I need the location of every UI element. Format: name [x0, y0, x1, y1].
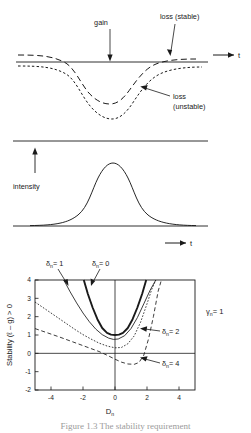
series-label-delta1: δn= 1	[46, 259, 63, 269]
svg-text:Stability (ℓ – g) > 0: Stability (ℓ – g) > 0	[5, 304, 14, 366]
intensity-pulse-curve	[30, 163, 196, 226]
t-axis-arrow	[213, 52, 234, 58]
y-tick-label: -2	[25, 386, 31, 393]
figure-container: t gain loss (stable) loss (unstable)	[0, 0, 251, 433]
intensity-axis-label: intensity	[13, 182, 40, 191]
y-tick-label: 0	[27, 350, 31, 357]
figure-caption: Figure 1.3 The stability requirement	[0, 421, 251, 433]
y-axis-ticks: 43210-1-2	[25, 276, 38, 393]
gain-annotation-arrow	[107, 29, 112, 62]
svg-text:γn= 1: γn= 1	[206, 307, 223, 317]
t-axis-label-mid: t	[190, 239, 193, 248]
svg-text:Dn: Dn	[106, 407, 114, 417]
series-leader-delta2	[145, 329, 160, 331]
series-label-delta2: δn= 2	[162, 327, 179, 337]
x-tick-label: 0	[113, 394, 117, 401]
loss-unstable-annotation-label-1: loss	[173, 92, 186, 101]
x-tick-label: 2	[145, 394, 149, 401]
x-axis-ticks: -4-2024	[48, 387, 181, 402]
x-tick-label: -4	[48, 394, 54, 401]
stability-panel: -4-2024 43210-1-2 Dn Stability (ℓ – g) >…	[0, 256, 251, 421]
series-leader-delta4	[145, 359, 160, 363]
y-tick-label: 3	[27, 295, 31, 302]
y-axis-title: Stability (ℓ – g) > 0	[5, 304, 14, 366]
t-axis-arrow-mid	[165, 240, 186, 246]
x-tick-label: -2	[80, 394, 86, 401]
x-axis-title: Dn	[106, 407, 114, 417]
loss-stable-annotation-label: loss (stable)	[160, 12, 199, 21]
t-axis-label-top: t	[238, 51, 241, 60]
series-label-delta0: δn= 0	[92, 259, 109, 269]
gain-annotation-label: gain	[94, 18, 108, 27]
gain-loss-panel: t gain loss (stable) loss (unstable)	[0, 0, 251, 130]
y-tick-label: 2	[27, 313, 31, 320]
loss-unstable-annotation-arrow	[140, 85, 170, 96]
series-annotations: δn= 1 δn= 0 δn= 2 δn= 4	[46, 259, 179, 369]
chart-curves	[35, 280, 161, 364]
y-tick-label: 1	[27, 331, 31, 338]
intensity-panel: intensity t	[0, 130, 251, 256]
y-tick-label: -1	[25, 368, 31, 375]
series-label-delta4: δn= 4	[162, 359, 179, 369]
y-tick-label: 4	[27, 276, 31, 283]
series-curve-1	[64, 280, 156, 339]
loss-unstable-annotation-label-2: (unstable)	[173, 102, 205, 111]
x-tick-label: 4	[177, 394, 181, 401]
gamma-n-annotation: γn= 1	[206, 307, 223, 317]
intensity-axis-arrow	[32, 148, 37, 174]
loss-stable-annotation-arrow	[167, 24, 175, 56]
